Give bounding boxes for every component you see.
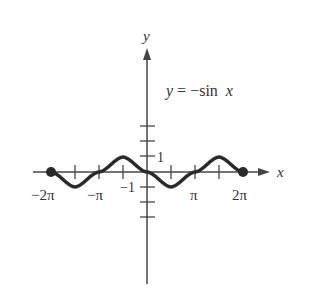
tick-label-2pi: 2π [232, 187, 248, 203]
x-axis-label: x [276, 164, 284, 180]
endpoint-left [46, 167, 56, 177]
sine-graph: y x y = −sin x 1 −1 −2π −π π 2π [0, 0, 310, 301]
equation-x: x [225, 82, 233, 99]
y-axis-label: y [141, 28, 150, 44]
y-axis-arrow-icon [143, 48, 151, 60]
equation-rhs: = −sin [173, 82, 222, 99]
tick-label-1: 1 [157, 150, 164, 165]
x-axis-arrow-icon [258, 168, 270, 176]
equation-label: y = −sin x [164, 82, 233, 100]
endpoint-right [238, 167, 248, 177]
tick-label-pi: π [190, 187, 198, 203]
tick-label-neg2pi: −2π [31, 187, 55, 203]
tick-label-negpi: −π [87, 187, 103, 203]
tick-label-neg1: −1 [120, 180, 135, 195]
